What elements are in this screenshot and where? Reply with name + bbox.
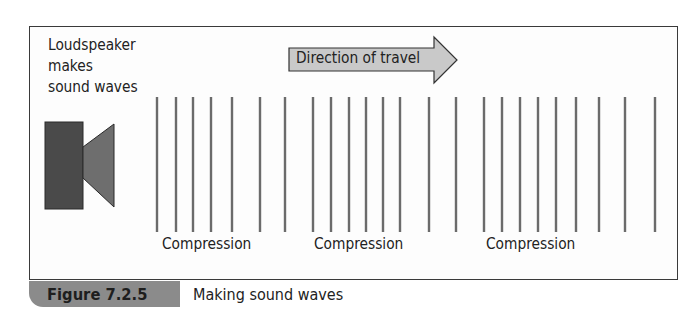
- wave-lines: [157, 97, 655, 232]
- figure-number: Figure 7.2.5: [47, 285, 147, 304]
- figure-caption: Making sound waves: [193, 285, 343, 304]
- speaker-label-line-2: makes: [48, 55, 138, 76]
- speaker-label-line-3: sound waves: [48, 76, 138, 97]
- speaker-label: Loudspeaker makes sound waves: [48, 34, 138, 97]
- speaker-cone-icon: [83, 124, 114, 207]
- speaker-box-icon: [45, 122, 83, 209]
- compression-label-1: Compression: [162, 236, 251, 252]
- speaker-label-line-1: Loudspeaker: [48, 34, 138, 55]
- compression-label-2: Compression: [314, 236, 403, 252]
- compression-label-3: Compression: [486, 236, 575, 252]
- direction-label: Direction of travel: [296, 50, 420, 66]
